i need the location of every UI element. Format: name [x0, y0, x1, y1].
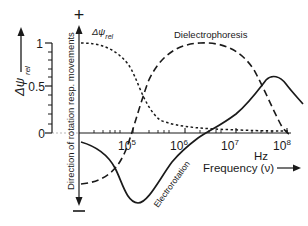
arrowhead-icon [18, 27, 25, 36]
x-unit: Hz [254, 150, 268, 162]
x-tick-1e8: 108 [273, 138, 291, 153]
ylabel-center: Direction of rotation resp. movements [65, 32, 76, 190]
label-dielectrophoresis: Dielectrophoresis [174, 29, 248, 40]
chart: Δψ rel 1 0.5 0 + Direction of rotation r… [0, 0, 308, 226]
series-electrorotation [81, 77, 303, 203]
plot-area [81, 43, 303, 203]
x-tick-1e5: 105 [118, 138, 136, 153]
ylabel-left-main: Δψ [12, 77, 27, 97]
label-delta-psi-rel: Δψrel [91, 26, 114, 40]
arrow-up-icon [76, 25, 83, 34]
x-tick-1e7: 107 [221, 138, 239, 153]
arrowhead-icon [293, 165, 301, 172]
y-tick-1: 1 [36, 37, 43, 51]
plus-sign: + [74, 5, 85, 25]
y-tick-0: 0 [38, 127, 45, 141]
ylabel-left-sub: rel [23, 66, 32, 75]
arrow-down-icon [76, 197, 83, 206]
direction-axis: + Direction of rotation resp. movements [65, 5, 85, 211]
x-tick-1e6: 106 [170, 138, 188, 153]
xlabel: Frequency (ν) [203, 162, 274, 174]
y-tick-0-5: 0.5 [28, 80, 45, 94]
series-delta-psi-rel [81, 43, 288, 131]
